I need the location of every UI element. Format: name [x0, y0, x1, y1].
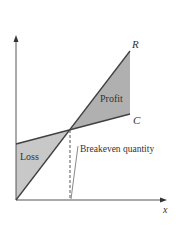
x-axis-label: x: [162, 204, 168, 215]
revenue-line: [16, 51, 130, 200]
breakeven-label: Breakeven quantity: [80, 144, 154, 154]
cost-line: [16, 114, 130, 144]
r-label: R: [131, 38, 139, 50]
c-label: C: [133, 114, 141, 126]
profit-label: Profit: [100, 93, 123, 104]
loss-label: Loss: [20, 151, 39, 162]
x-axis-arrow-icon: [160, 198, 167, 203]
breakeven-diagram: R C Profit Loss Breakeven quantity x: [0, 0, 184, 228]
y-axis-arrow-icon: [14, 35, 19, 42]
breakeven-leader-line: [71, 146, 78, 199]
